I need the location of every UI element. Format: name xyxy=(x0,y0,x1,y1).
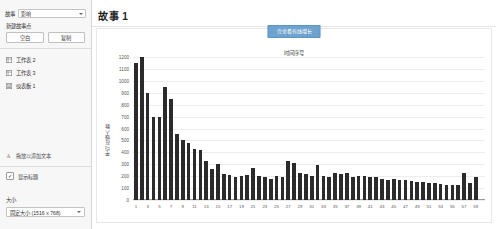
y-tick-label: 900 xyxy=(121,90,129,95)
bar[interactable] xyxy=(298,173,302,200)
bar[interactable] xyxy=(333,173,337,200)
bar[interactable] xyxy=(404,180,408,200)
bar[interactable] xyxy=(345,173,349,200)
bar[interactable] xyxy=(363,176,367,200)
bar[interactable] xyxy=(357,176,361,200)
bar[interactable] xyxy=(462,173,466,200)
svg-text:A: A xyxy=(7,153,11,159)
bar[interactable] xyxy=(175,134,179,200)
bar[interactable] xyxy=(392,179,396,200)
page-title: 故事 1 xyxy=(98,8,128,23)
bar[interactable] xyxy=(263,177,267,200)
x-tick-label: 41 xyxy=(368,204,373,209)
bar[interactable] xyxy=(398,180,402,200)
bar[interactable] xyxy=(427,183,431,200)
y-tick-label: 700 xyxy=(121,114,129,119)
bar[interactable] xyxy=(339,174,343,200)
bar[interactable] xyxy=(169,99,173,200)
x-tick-label: 33 xyxy=(321,204,326,209)
bar[interactable] xyxy=(228,175,232,200)
story-point-nav-chip[interactable]: 完全看有线增长 xyxy=(268,25,321,38)
bar[interactable] xyxy=(146,93,150,200)
bar[interactable] xyxy=(152,117,156,200)
bar[interactable] xyxy=(275,176,279,200)
y-tick-label: 0 xyxy=(126,198,129,203)
bar[interactable] xyxy=(374,177,378,200)
bar[interactable] xyxy=(222,174,226,200)
bar[interactable] xyxy=(181,140,185,200)
bar[interactable] xyxy=(251,168,255,200)
bar[interactable] xyxy=(351,177,355,200)
bar[interactable] xyxy=(327,177,331,200)
show-title-checkbox[interactable]: ✓ xyxy=(6,172,14,180)
y-tick-label: 1200 xyxy=(119,55,129,60)
bar[interactable] xyxy=(456,185,460,200)
bar[interactable] xyxy=(292,163,296,200)
bar[interactable] xyxy=(386,180,390,200)
size-dropdown[interactable]: 固定大小 (1516 x 768) xyxy=(6,207,85,217)
story-dropdown[interactable]: 影响 xyxy=(18,9,86,18)
bar[interactable] xyxy=(445,185,449,200)
show-title-row[interactable]: ✓ 显示标题 xyxy=(0,172,44,180)
x-tick-label: 29 xyxy=(298,204,303,209)
blank-button[interactable]: 空白 xyxy=(6,32,44,43)
bar[interactable] xyxy=(240,176,244,200)
bar[interactable] xyxy=(468,183,472,200)
bar-cell[interactable] xyxy=(479,57,485,200)
bar[interactable] xyxy=(216,164,220,200)
x-tick-label: 25 xyxy=(274,204,279,209)
x-tick-label: 45 xyxy=(391,204,396,209)
sidebar-divider-2 xyxy=(0,166,91,167)
x-tick-label: 59 xyxy=(473,204,478,209)
tableau-story-window: 故事 影响 新建故事点 空白 复制 工作表 2 工作表 3 xyxy=(0,0,496,229)
bar[interactable] xyxy=(269,179,273,200)
bar[interactable] xyxy=(415,182,419,200)
bar[interactable] xyxy=(474,177,478,200)
bar[interactable] xyxy=(134,63,138,200)
bar[interactable] xyxy=(199,150,203,200)
bar[interactable] xyxy=(368,177,372,200)
worksheet-icon xyxy=(6,57,12,63)
bar[interactable] xyxy=(234,177,238,200)
duplicate-button[interactable]: 复制 xyxy=(48,32,86,43)
y-tick-label: 400 xyxy=(121,150,129,155)
bar[interactable] xyxy=(210,169,214,200)
bar[interactable] xyxy=(281,177,285,200)
sidebar-item-dashboard-1[interactable]: 仪表板 1 xyxy=(0,79,91,92)
bar[interactable] xyxy=(439,184,443,200)
size-dropdown-value: 固定大小 (1516 x 768) xyxy=(10,209,61,216)
main-canvas: 故事 1 完全看有线增长 时间序号 平均在线人数 010020030040050… xyxy=(92,0,496,229)
bar[interactable] xyxy=(421,182,425,200)
plot-area: 平均在线人数 010020030040050060070080090010001… xyxy=(97,57,485,222)
y-axis-label: 平均在线人数 xyxy=(103,123,110,155)
chart-card: 完全看有线增长 时间序号 平均在线人数 01002003004005006007… xyxy=(96,28,492,223)
bar[interactable] xyxy=(380,179,384,200)
bar[interactable] xyxy=(304,174,308,200)
bar[interactable] xyxy=(257,176,261,200)
chevron-down-icon xyxy=(79,13,83,15)
x-tick-label: 55 xyxy=(450,204,455,209)
bar[interactable] xyxy=(187,143,191,200)
bar[interactable] xyxy=(451,185,455,200)
bar[interactable] xyxy=(163,87,167,200)
bar[interactable] xyxy=(310,176,314,200)
bar[interactable] xyxy=(245,175,249,200)
bar[interactable] xyxy=(322,176,326,200)
bar[interactable] xyxy=(193,149,197,200)
x-tick-label: 7 xyxy=(170,204,172,209)
x-tick-label: 3 xyxy=(146,204,148,209)
y-tick-label: 200 xyxy=(121,174,129,179)
bar[interactable] xyxy=(410,181,414,200)
sidebar-item-worksheet-3[interactable]: 工作表 3 xyxy=(0,66,91,79)
bar[interactable] xyxy=(286,161,290,200)
bar[interactable] xyxy=(316,165,320,200)
drag-to-add-text-zone[interactable]: A 拖放以添加文本 xyxy=(0,152,91,159)
bar[interactable] xyxy=(140,57,144,200)
dashboard-icon xyxy=(6,83,12,89)
bar[interactable] xyxy=(204,161,208,200)
bar[interactable] xyxy=(433,183,437,200)
bar[interactable] xyxy=(158,117,162,200)
gridline xyxy=(133,200,485,201)
sidebar-item-worksheet-2[interactable]: 工作表 2 xyxy=(0,53,91,66)
y-tick-label: 600 xyxy=(121,126,129,131)
